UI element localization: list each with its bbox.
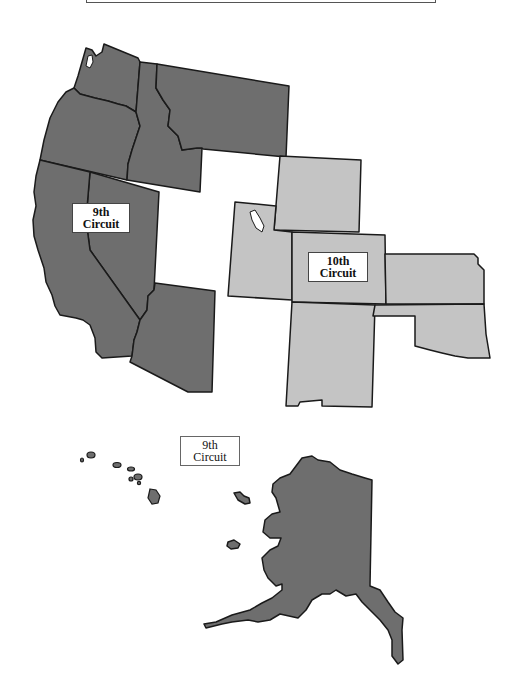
tenth-circuit-label: 10th Circuit — [308, 252, 368, 282]
island-nunivak — [227, 540, 240, 549]
state-alaska[interactable] — [204, 456, 403, 664]
state-kansas[interactable] — [385, 254, 484, 304]
ninth-circuit-label-mainland: 9th Circuit — [72, 203, 130, 233]
ninth-label-line2: Circuit — [73, 218, 129, 230]
state-wyoming[interactable] — [274, 156, 361, 232]
island-st-lawrence — [234, 492, 250, 504]
state-oklahoma[interactable] — [373, 304, 490, 358]
hawaii-islands — [81, 452, 161, 504]
tenth-label-line2: Circuit — [309, 267, 367, 279]
ninth-circuit-label-pacific: 9th Circuit — [180, 436, 240, 466]
circuit-map — [0, 0, 517, 695]
alaska — [204, 456, 403, 664]
ninth-pacific-line2: Circuit — [181, 451, 239, 463]
state-new-mexico[interactable] — [286, 302, 375, 407]
